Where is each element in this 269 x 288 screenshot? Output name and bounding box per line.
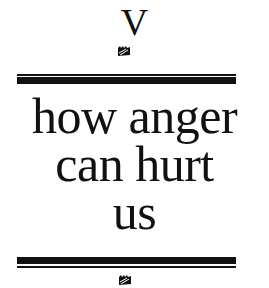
bottom-thick-rule [17, 257, 236, 264]
bottom-thin-rule [17, 266, 236, 268]
fleuron-ornament-icon [117, 45, 131, 57]
chapter-number: V [0, 2, 269, 42]
title-line-3: us [0, 188, 269, 236]
title-line-2: can hurt [0, 140, 269, 188]
chapter-title: how anger can hurt us [0, 92, 269, 236]
top-thick-rule [17, 77, 236, 84]
title-line-1: how anger [0, 92, 269, 140]
fleuron-ornament-icon [118, 274, 132, 286]
top-thin-rule [17, 74, 236, 76]
